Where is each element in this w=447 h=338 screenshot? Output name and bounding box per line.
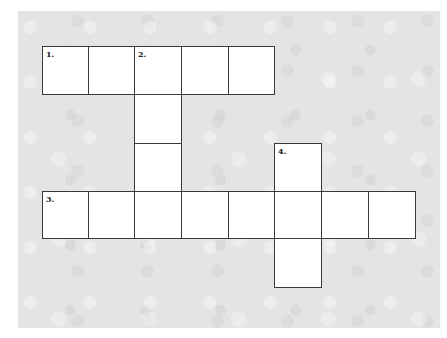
- crossword-cell[interactable]: [274, 191, 322, 239]
- crossword-cell[interactable]: [368, 191, 416, 239]
- crossword-cell[interactable]: [134, 94, 182, 144]
- crossword-cell[interactable]: [88, 191, 135, 239]
- crossword-cell[interactable]: [88, 46, 135, 95]
- clue-number: 1.: [46, 49, 54, 59]
- clue-number: 3.: [46, 194, 54, 204]
- crossword-cell[interactable]: [181, 46, 229, 95]
- crossword-cell[interactable]: 3.: [42, 191, 89, 239]
- crossword-cell[interactable]: [321, 191, 369, 239]
- crossword-cell[interactable]: [134, 191, 182, 239]
- crossword-cell[interactable]: 2.: [134, 46, 182, 95]
- clue-number: 4.: [278, 146, 286, 156]
- crossword-cell[interactable]: [274, 238, 322, 288]
- crossword-cell[interactable]: [181, 191, 229, 239]
- crossword-cell[interactable]: 1.: [42, 46, 89, 95]
- crossword-cell[interactable]: 4.: [274, 143, 322, 192]
- crossword-cell[interactable]: [228, 191, 275, 239]
- clue-number: 2.: [138, 49, 146, 59]
- crossword-cell[interactable]: [134, 143, 182, 192]
- crossword-cell[interactable]: [228, 46, 275, 95]
